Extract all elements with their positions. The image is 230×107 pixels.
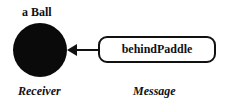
arrow-icon [60, 40, 100, 60]
receiver-caption: Receiver [18, 84, 61, 99]
message-caption: Message [133, 84, 176, 99]
receiver-ball-circle [13, 23, 67, 77]
message-box: behindPaddle [98, 36, 216, 63]
object-label: a Ball [22, 5, 52, 20]
